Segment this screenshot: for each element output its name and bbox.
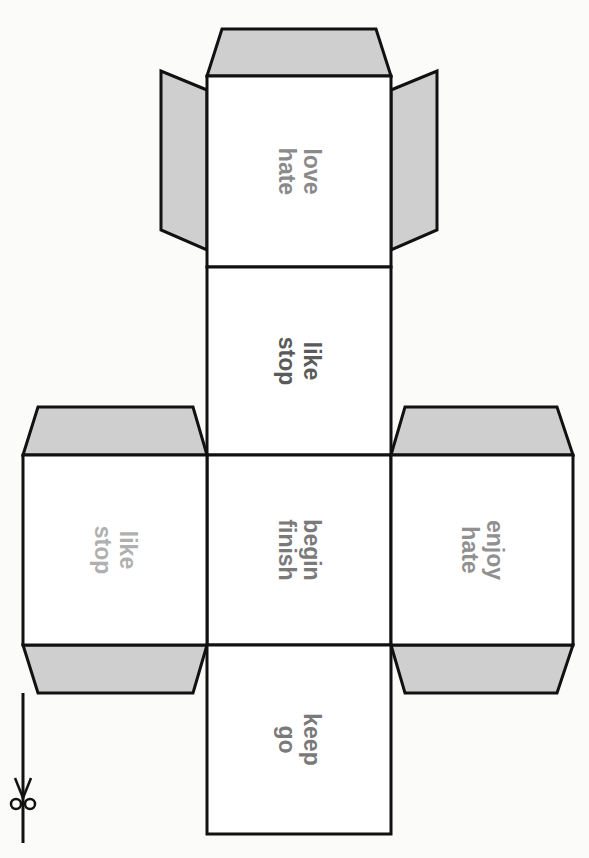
word-2: hate [457, 526, 482, 573]
glue-tab [391, 71, 437, 250]
word-2: stop [90, 526, 115, 575]
face-label-left: like stop [20, 458, 210, 642]
face-label-center: begin finish [204, 458, 394, 642]
word-1: keep [299, 713, 324, 765]
word-1: like [299, 342, 324, 380]
word-2: stop [274, 337, 299, 386]
word-2: hate [274, 148, 299, 195]
word-1: love [299, 148, 324, 194]
glue-tab [23, 407, 207, 455]
face-label-right: enjoy hate [387, 459, 577, 641]
dice-template-sheet: love hate like stop begin finish like st… [0, 0, 589, 858]
glue-tab [391, 407, 573, 455]
word-1: begin [299, 519, 324, 580]
glue-tab [207, 29, 391, 76]
glue-tab [391, 645, 573, 693]
word-1: like [115, 531, 140, 569]
glue-tab [161, 71, 207, 250]
word-1: enjoy [482, 520, 507, 580]
face-label-upper-middle: like stop [205, 269, 393, 453]
word-2: go [274, 725, 299, 753]
word-2: finish [274, 519, 299, 580]
glue-tab [23, 645, 207, 693]
face-label-bottom: keep go [205, 648, 394, 832]
face-label-top: love hate [204, 80, 395, 264]
